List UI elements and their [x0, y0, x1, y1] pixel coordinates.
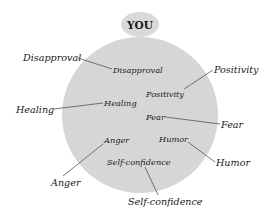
you-node: YOU	[121, 12, 159, 37]
outer-label-positivity: Positivity	[213, 64, 259, 75]
outer-label-disapproval: Disapproval	[22, 52, 81, 63]
outer-label-healing: Healing	[15, 104, 54, 115]
inner-label-humor: Humor	[158, 134, 189, 144]
inner-label-positivity: Positivity	[145, 89, 184, 99]
inner-label-disapproval: Disapproval	[112, 65, 163, 75]
inner-label-self-confidence: Self-confidence	[107, 157, 171, 167]
you-emotions-diagram: YOU Disapproval Positivity Healing Fear …	[0, 0, 272, 222]
you-label: YOU	[126, 19, 153, 31]
inner-label-fear: Fear	[145, 112, 166, 122]
outer-label-anger: Anger	[50, 177, 82, 188]
outer-label-self-confidence: Self-confidence	[128, 196, 203, 207]
inner-label-anger: Anger	[103, 135, 130, 145]
outer-label-humor: Humor	[215, 157, 251, 168]
outer-label-fear: Fear	[220, 119, 245, 130]
inner-label-healing: Healing	[103, 98, 137, 108]
